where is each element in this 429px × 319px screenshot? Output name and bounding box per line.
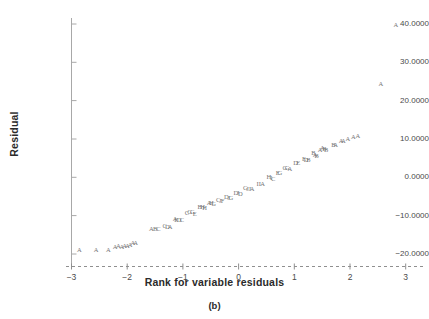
figure-caption: (b)	[0, 300, 429, 311]
scatter-point: B	[306, 156, 310, 163]
scatter-point: A	[168, 223, 173, 230]
scatter-point: B	[324, 145, 328, 152]
y-tick-label: 0.0000	[371, 172, 429, 181]
scatter-point: A	[106, 246, 111, 253]
scatter-point: G	[229, 193, 234, 200]
scatter-point: A	[94, 245, 99, 252]
scatter-point: A	[333, 140, 338, 147]
y-tick-label: 20.0000	[371, 96, 429, 105]
y-axis-title: Residual	[8, 94, 20, 174]
scatter-point: G	[278, 168, 283, 175]
scatter-point: D	[238, 189, 243, 196]
scatter-point: A	[356, 132, 361, 139]
y-tick-label: −20.0000	[371, 249, 429, 258]
scatter-point: A	[133, 238, 138, 245]
scatter-point: A	[346, 135, 351, 142]
y-tick-label: 40.0000	[371, 19, 429, 28]
scatter-point: E	[296, 159, 300, 166]
scatter-point: E	[193, 209, 197, 216]
y-tick-label: 10.0000	[371, 134, 429, 143]
residual-qq-plot: 40.0000 30.0000 20.0000 10.0000 0.0000 −…	[0, 0, 429, 319]
y-tick-label: −10.0000	[371, 211, 429, 220]
scatter-point: A	[250, 185, 255, 192]
y-tick-label: 30.0000	[371, 57, 429, 66]
scatter-point: A	[77, 245, 82, 252]
scatter-point: C	[156, 225, 160, 232]
x-axis-title: Rank for variable residuals	[0, 276, 429, 288]
y-tick-marks	[72, 24, 77, 254]
scatter-point: C	[271, 174, 275, 181]
scatter-point: A	[378, 80, 383, 87]
scatter-point: C	[180, 216, 184, 223]
scatter-point: A	[260, 180, 265, 187]
scatter-point: B	[315, 152, 319, 159]
scatter-point: A	[393, 21, 398, 28]
scatter-point: A	[288, 165, 293, 172]
